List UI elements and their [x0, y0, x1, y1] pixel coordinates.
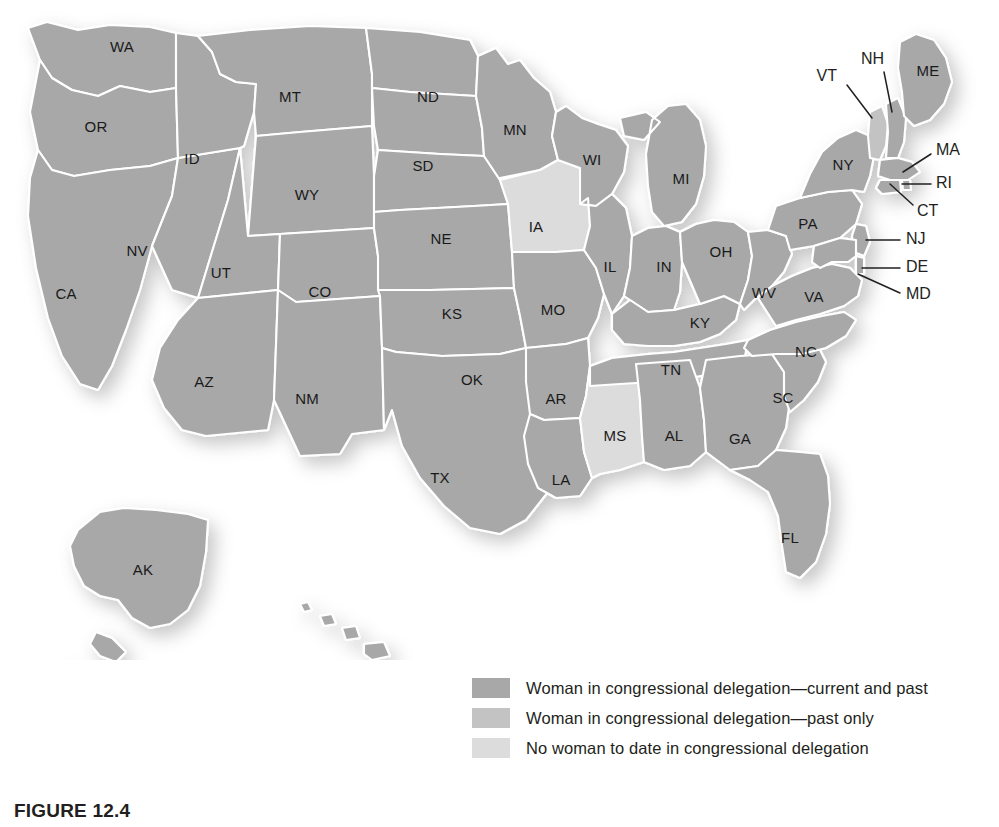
- state-label-MO: MO: [541, 301, 566, 318]
- state-label-WV: WV: [752, 284, 777, 301]
- state-label-VA: VA: [804, 288, 823, 305]
- state-label-AR: AR: [545, 390, 566, 407]
- callout-label-MA: MA: [936, 141, 960, 158]
- state-FL[interactable]: [730, 450, 830, 578]
- figure-container: WA OR ID MT WY NV CA UT AZ CO NM ND SD N…: [0, 0, 999, 827]
- callout-label-NH: NH: [861, 50, 884, 67]
- legend-swatch-none: [472, 738, 510, 758]
- callout-line-VT: [847, 85, 872, 118]
- state-label-CA: CA: [55, 285, 76, 302]
- state-MI[interactable]: [620, 104, 706, 226]
- state-label-MT: MT: [279, 88, 301, 105]
- legend-swatch-past-only: [472, 708, 510, 728]
- state-label-FL: FL: [781, 529, 799, 546]
- callout-label-CT: CT: [917, 202, 939, 219]
- state-label-NC: NC: [795, 343, 817, 360]
- state-label-AZ: AZ: [194, 373, 214, 390]
- state-label-PA: PA: [798, 215, 817, 232]
- callout-label-RI: RI: [936, 174, 952, 191]
- state-label-TN: TN: [661, 361, 681, 378]
- state-AR[interactable]: [526, 338, 590, 420]
- state-label-WY: WY: [295, 186, 320, 203]
- state-label-ND: ND: [417, 88, 439, 105]
- callout-label-VT: VT: [817, 67, 838, 84]
- state-MN[interactable]: [476, 48, 558, 180]
- state-RI[interactable]: [902, 180, 911, 190]
- state-KS[interactable]: [374, 204, 514, 290]
- state-label-MN: MN: [503, 121, 527, 138]
- state-MA[interactable]: [878, 158, 920, 180]
- state-label-IL: IL: [604, 258, 617, 275]
- state-ME[interactable]: [898, 34, 952, 126]
- state-WY[interactable]: [248, 126, 374, 236]
- us-map-svg: WA OR ID MT WY NV CA UT AZ CO NM ND SD N…: [0, 0, 999, 660]
- state-label-UT: UT: [211, 264, 231, 281]
- state-label-WI: WI: [583, 151, 602, 168]
- legend-label-none: No woman to date in congressional delega…: [526, 739, 869, 758]
- legend-label-current-past: Woman in congressional delegation—curren…: [526, 679, 928, 698]
- callout-label-MD: MD: [906, 285, 931, 302]
- state-label-AK: AK: [133, 561, 153, 578]
- legend-row-current-past: Woman in congressional delegation—curren…: [472, 673, 972, 703]
- state-label-OH: OH: [710, 243, 733, 260]
- figure-caption: FIGURE 12.4: [14, 800, 130, 822]
- state-label-CO: CO: [309, 283, 332, 300]
- legend-row-past-only: Woman in congressional delegation—past o…: [472, 703, 972, 733]
- state-label-MS: MS: [604, 427, 627, 444]
- state-label-MI: MI: [672, 170, 689, 187]
- state-DE[interactable]: [856, 256, 864, 274]
- state-label-KY: KY: [690, 314, 710, 331]
- state-VT[interactable]: [868, 106, 888, 160]
- callout-line-MD: [858, 274, 900, 293]
- state-label-KS: KS: [442, 305, 462, 322]
- map-legend: Woman in congressional delegation—curren…: [472, 673, 972, 763]
- callout-label-DE: DE: [906, 258, 928, 275]
- legend-row-none: No woman to date in congressional delega…: [472, 733, 972, 763]
- state-label-OR: OR: [85, 118, 108, 135]
- state-label-LA: LA: [552, 471, 571, 488]
- state-CT[interactable]: [876, 180, 901, 194]
- state-label-SD: SD: [412, 157, 433, 174]
- state-label-GA: GA: [729, 430, 751, 447]
- state-label-NY: NY: [832, 156, 853, 173]
- legend-label-past-only: Woman in congressional delegation—past o…: [526, 709, 874, 728]
- map-shapes-group: [28, 22, 952, 660]
- state-label-NM: NM: [295, 390, 319, 407]
- legend-swatch-current-past: [472, 678, 510, 698]
- state-label-AL: AL: [665, 427, 684, 444]
- state-IN[interactable]: [624, 226, 682, 312]
- callout-label-NJ: NJ: [906, 230, 926, 247]
- state-label-ME: ME: [917, 62, 940, 79]
- state-AZ[interactable]: [152, 290, 278, 436]
- state-HI[interactable]: [300, 602, 390, 660]
- state-label-SC: SC: [772, 389, 793, 406]
- state-label-IA: IA: [529, 218, 544, 235]
- state-MO[interactable]: [512, 250, 604, 348]
- state-AK[interactable]: [56, 508, 208, 660]
- state-label-TX: TX: [430, 469, 450, 486]
- state-label-NV: NV: [126, 242, 147, 259]
- state-label-WA: WA: [110, 38, 134, 55]
- state-label-ID: ID: [184, 150, 199, 167]
- state-label-IN: IN: [656, 258, 671, 275]
- state-ND[interactable]: [366, 28, 478, 96]
- state-label-NE: NE: [430, 230, 451, 247]
- state-OK[interactable]: [378, 288, 526, 356]
- state-CA[interactable]: [28, 150, 178, 390]
- state-OH[interactable]: [680, 220, 752, 304]
- us-choropleth-map: WA OR ID MT WY NV CA UT AZ CO NM ND SD N…: [0, 0, 999, 660]
- state-label-OK: OK: [461, 371, 483, 388]
- state-NM[interactable]: [274, 290, 384, 456]
